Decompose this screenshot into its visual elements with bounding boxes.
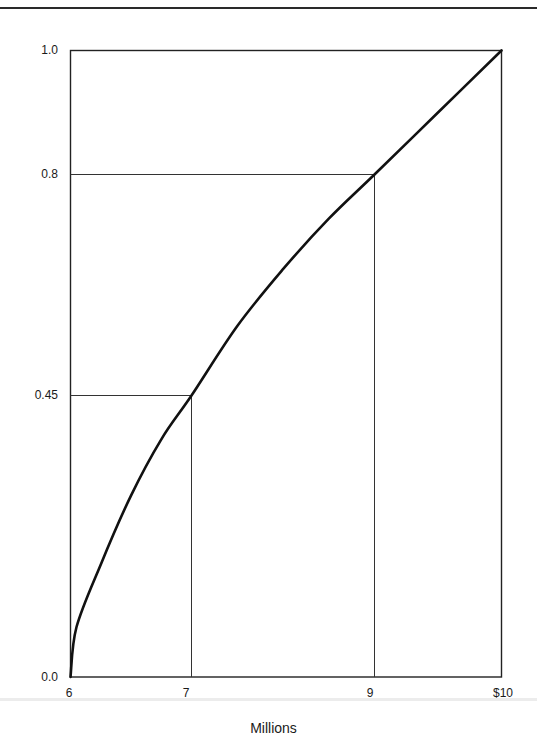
x-tick-10: $10 <box>483 686 523 700</box>
utility-curve <box>71 51 502 678</box>
y-tick-1.0: 1.0 <box>2 43 58 57</box>
x-axis-label-text: Millions <box>250 720 297 736</box>
reference-lines <box>71 175 375 678</box>
plot-frame <box>71 51 502 678</box>
y-tick-0.8: 0.8 <box>2 167 58 181</box>
x-tick-7: 7 <box>166 686 206 700</box>
x-tick-9: 9 <box>350 686 390 700</box>
ref-line-7-0.45 <box>71 396 192 678</box>
ref-line-9-0.8 <box>71 175 375 678</box>
y-tick-0.0: 0.0 <box>2 670 58 684</box>
y-tick-0.45: 0.45 <box>2 388 58 402</box>
x-tick-6: 6 <box>49 686 89 700</box>
chart-plot <box>0 0 537 748</box>
x-axis-label: Millions <box>0 720 537 736</box>
